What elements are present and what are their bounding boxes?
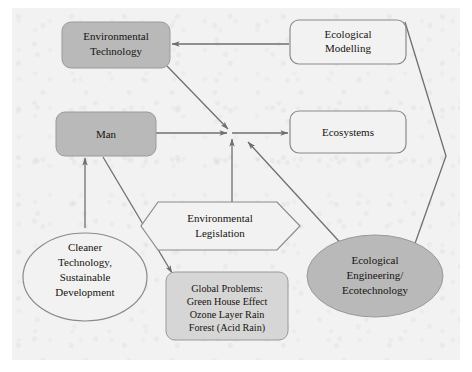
ecological-modelling-label-line1: Ecological (324, 28, 371, 40)
global-problems-label-line3: Ozone Layer Rain (190, 309, 265, 320)
node-ecological-engineering[interactable]: Ecological Engineering/ Ecotechnology (307, 235, 443, 317)
node-global-problems[interactable]: Global Problems: Green House Effect Ozon… (166, 272, 288, 340)
ecological-engineering-label-line3: Ecotechnology (342, 284, 408, 296)
global-problems-label-line1: Global Problems: (191, 283, 263, 294)
ecological-engineering-label-line1: Ecological (351, 254, 398, 266)
environmental-legislation-label-line1: Environmental (187, 212, 252, 224)
node-environmental-technology[interactable]: Environmental Technology (62, 22, 170, 68)
environmental-technology-label-line1: Environmental (83, 30, 148, 42)
edge-envtech-to-junction (167, 66, 228, 129)
global-problems-label-line4: Forest (Acid Rain) (189, 322, 265, 334)
node-ecosystems[interactable]: Ecosystems (290, 111, 406, 153)
diagram-page: Environmental Technology Ecological Mode… (0, 0, 472, 372)
flowchart-svg: Environmental Technology Ecological Mode… (0, 0, 472, 372)
global-problems-label-line2: Green House Effect (187, 296, 268, 307)
cleaner-technology-label-line2: Technology, (58, 256, 112, 268)
edge-modelling-to-ecoeng (405, 22, 446, 252)
node-layer: Environmental Technology Ecological Mode… (23, 20, 443, 340)
environmental-technology-label-line2: Technology (90, 45, 142, 57)
ecosystems-label: Ecosystems (322, 126, 374, 138)
cleaner-technology-label-line1: Cleaner (68, 241, 103, 253)
ecological-engineering-label-line2: Engineering/ (347, 269, 405, 281)
node-ecological-modelling[interactable]: Ecological Modelling (290, 20, 406, 64)
ecological-modelling-label-line2: Modelling (325, 42, 371, 54)
cleaner-technology-label-line4: Development (55, 286, 114, 298)
node-man[interactable]: Man (56, 112, 156, 156)
man-label: Man (96, 128, 117, 140)
environmental-legislation-label-line2: Legislation (195, 227, 245, 239)
cleaner-technology-label-line3: Sustainable (60, 271, 111, 283)
environmental-legislation-shape (141, 202, 300, 250)
node-cleaner-technology[interactable]: Cleaner Technology, Sustainable Developm… (23, 233, 147, 321)
node-environmental-legislation[interactable]: Environmental Legislation (141, 202, 300, 250)
